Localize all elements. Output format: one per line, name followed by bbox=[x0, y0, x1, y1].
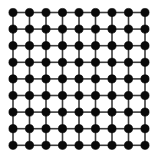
lattice-node bbox=[141, 58, 149, 66]
lattice-graph-canvas bbox=[0, 0, 156, 154]
lattice-node bbox=[91, 42, 99, 50]
lattice-node bbox=[75, 58, 83, 66]
lattice-node bbox=[42, 75, 50, 83]
lattice-node bbox=[9, 25, 17, 33]
lattice-node bbox=[75, 8, 83, 16]
lattice-node bbox=[75, 75, 83, 83]
lattice-node bbox=[141, 108, 149, 116]
lattice-node bbox=[9, 75, 17, 83]
lattice-node bbox=[9, 58, 17, 66]
lattice-node bbox=[42, 8, 50, 16]
lattice-node bbox=[124, 125, 132, 133]
lattice-node bbox=[42, 25, 50, 33]
lattice-node bbox=[58, 8, 66, 16]
lattice-node bbox=[108, 75, 116, 83]
lattice-node bbox=[124, 91, 132, 99]
lattice-node bbox=[108, 108, 116, 116]
lattice-node bbox=[58, 141, 66, 149]
lattice-node bbox=[91, 25, 99, 33]
lattice-node bbox=[58, 75, 66, 83]
lattice-node bbox=[25, 108, 33, 116]
lattice-node bbox=[124, 8, 132, 16]
lattice-node bbox=[75, 125, 83, 133]
lattice-node bbox=[91, 8, 99, 16]
lattice-node bbox=[108, 125, 116, 133]
lattice-node bbox=[91, 91, 99, 99]
lattice-node bbox=[108, 91, 116, 99]
lattice-node bbox=[42, 141, 50, 149]
lattice-node bbox=[42, 42, 50, 50]
lattice-node bbox=[9, 91, 17, 99]
lattice-node bbox=[25, 141, 33, 149]
lattice-node bbox=[124, 42, 132, 50]
lattice-node bbox=[58, 125, 66, 133]
lattice-node bbox=[124, 75, 132, 83]
lattice-node bbox=[58, 91, 66, 99]
lattice-node bbox=[124, 58, 132, 66]
lattice-node bbox=[91, 141, 99, 149]
lattice-node bbox=[25, 58, 33, 66]
lattice-node bbox=[25, 91, 33, 99]
lattice-node bbox=[58, 58, 66, 66]
lattice-node bbox=[108, 42, 116, 50]
lattice-node bbox=[9, 8, 17, 16]
lattice-node bbox=[25, 42, 33, 50]
lattice-node bbox=[42, 58, 50, 66]
lattice-node bbox=[108, 141, 116, 149]
lattice-node bbox=[9, 108, 17, 116]
lattice-node bbox=[141, 75, 149, 83]
lattice-node bbox=[91, 125, 99, 133]
lattice-node bbox=[91, 108, 99, 116]
lattice-node bbox=[141, 91, 149, 99]
lattice-node bbox=[124, 141, 132, 149]
node-layer bbox=[9, 8, 149, 149]
lattice-node bbox=[9, 42, 17, 50]
lattice-node bbox=[25, 8, 33, 16]
lattice-node bbox=[124, 25, 132, 33]
lattice-node bbox=[25, 75, 33, 83]
lattice-node bbox=[58, 108, 66, 116]
lattice-node bbox=[108, 25, 116, 33]
lattice-node bbox=[42, 91, 50, 99]
lattice-node bbox=[91, 75, 99, 83]
lattice-node bbox=[42, 108, 50, 116]
lattice-node bbox=[124, 108, 132, 116]
lattice-node bbox=[141, 125, 149, 133]
lattice-node bbox=[25, 25, 33, 33]
lattice-node bbox=[25, 125, 33, 133]
lattice-node bbox=[75, 42, 83, 50]
lattice-node bbox=[141, 42, 149, 50]
lattice-node bbox=[141, 25, 149, 33]
lattice-node bbox=[75, 141, 83, 149]
lattice-node bbox=[75, 25, 83, 33]
lattice-node bbox=[108, 8, 116, 16]
lattice-node bbox=[42, 125, 50, 133]
lattice-node bbox=[141, 141, 149, 149]
lattice-figure bbox=[0, 0, 156, 154]
lattice-node bbox=[91, 58, 99, 66]
lattice-node bbox=[108, 58, 116, 66]
lattice-node bbox=[9, 125, 17, 133]
lattice-node bbox=[75, 91, 83, 99]
lattice-node bbox=[58, 25, 66, 33]
lattice-node bbox=[75, 108, 83, 116]
lattice-node bbox=[58, 42, 66, 50]
lattice-node bbox=[141, 8, 149, 16]
lattice-node bbox=[9, 141, 17, 149]
